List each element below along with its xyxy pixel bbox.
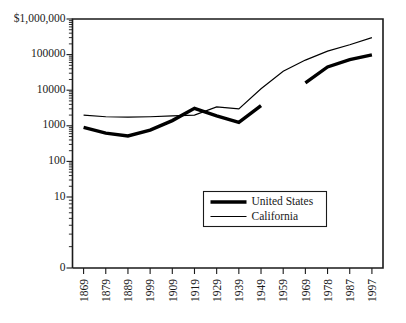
chart-legend: United StatesCalifornia (204, 192, 327, 227)
x-axis-tick-label: 1929 (211, 279, 223, 302)
x-axis-tick-label: 1978 (322, 279, 334, 302)
y-axis-tick-label: 0 (60, 261, 66, 273)
x-axis-tick-label: 1879 (100, 279, 112, 302)
x-axis-tick-label: 1999 (144, 279, 156, 302)
y-axis-tick-label: 10 (54, 190, 66, 202)
y-axis-ticks (67, 19, 73, 268)
y-axis-tick-label: 100000 (31, 47, 66, 59)
x-axis-tick-label: 1869 (78, 279, 90, 302)
x-axis-tick-label: 1997 (366, 279, 378, 302)
y-axis-tick-label: 100 (48, 154, 66, 166)
y-axis-tick-label: $1,000,000 (14, 12, 66, 25)
legend-label: United States (252, 195, 314, 207)
series-line-california (84, 38, 372, 118)
axis-frame (73, 19, 384, 268)
series-line-united-states (84, 106, 261, 136)
x-axis-tick-labels: 1869187918891999190919191929193919491959… (78, 279, 378, 302)
x-axis-tick-label: 1889 (122, 279, 134, 302)
x-axis-tick-label: 1969 (300, 279, 312, 302)
x-axis-tick-label: 1987 (344, 279, 356, 302)
legend-label: California (252, 210, 299, 222)
x-axis-tick-label: 1939 (233, 279, 245, 302)
y-axis-tick-labels: $1,000,000100000100001000100100 (14, 12, 66, 273)
y-axis-tick-label: 1000 (43, 118, 66, 130)
data-series-layer (84, 38, 372, 136)
x-axis-tick-label: 1909 (167, 279, 179, 302)
series-line-united-states (305, 55, 372, 83)
x-axis-tick-label: 1959 (277, 279, 289, 302)
x-axis-tick-label: 1949 (255, 279, 267, 302)
x-axis-ticks (84, 268, 372, 274)
chart-container: $1,000,000100000100001000100100 18691879… (0, 0, 406, 323)
x-axis-tick-label: 1919 (189, 279, 201, 302)
line-chart: $1,000,000100000100001000100100 18691879… (0, 0, 406, 323)
y-axis-tick-label: 10000 (37, 83, 66, 95)
